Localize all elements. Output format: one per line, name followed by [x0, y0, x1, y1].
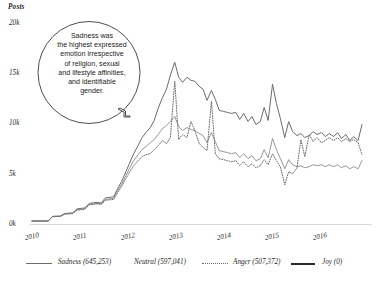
legend-swatch-solid-thick-icon: [291, 263, 315, 265]
callout-line: gender.: [46, 87, 138, 96]
callout-line: and identifiable: [46, 78, 138, 87]
callout-line: Sadness was: [46, 32, 138, 41]
callout-line: and lifestyle affinities,: [46, 69, 138, 78]
legend-swatch-dotted-icon: [202, 263, 228, 264]
legend-label-anger: Anger (507,372): [233, 258, 281, 266]
callout-line: the highest expressed: [46, 41, 138, 50]
legend-label-neutral: Neutral (597,041): [134, 258, 186, 266]
chart-legend: Sadness (645,253) Neutral (597,041) Ange…: [0, 257, 377, 273]
callout-annotation-text: Sadness wasthe highest expressedemotion …: [46, 32, 138, 96]
callout-line: emotion irrespective: [46, 50, 138, 59]
legend-label-joy: Joy (0): [322, 258, 342, 266]
callout-line: of religion, sexual: [46, 60, 138, 69]
legend-label-sadness: Sadness (645,253): [58, 258, 111, 266]
legend-swatch-solid-thin-icon: [26, 263, 52, 264]
chart-container: Posts 20k 15k 10k 5k 0k 2010 2011 2012 2…: [0, 0, 377, 283]
